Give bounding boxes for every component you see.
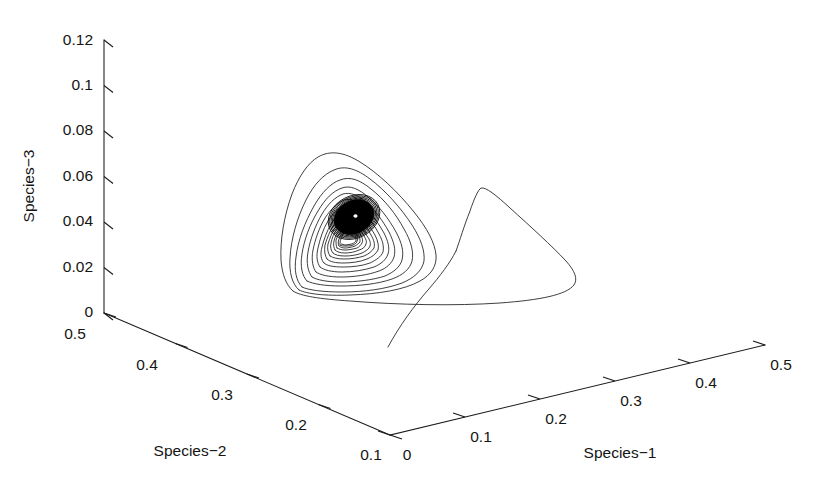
trajectory-curve — [281, 153, 576, 347]
x-tick-label: 0.5 — [770, 356, 792, 373]
z-tick-labels: 0.12 0.1 0.08 0.06 0.04 0.02 0 — [63, 31, 94, 320]
x-tick-label: 0.1 — [470, 428, 492, 445]
z-tick-label: 0.12 — [63, 31, 93, 48]
x-tick-label: 0.3 — [620, 392, 642, 409]
plot-canvas: 0.12 0.1 0.08 0.06 0.04 0.02 0 0.5 0.4 0… — [0, 0, 832, 493]
y-axis-title: Species−2 — [154, 442, 227, 459]
trajectory-tail — [388, 251, 456, 347]
fixed-point-marker — [353, 214, 357, 218]
z-tick-label: 0.02 — [63, 258, 93, 275]
z-tick-label: 0.06 — [63, 167, 93, 184]
z-tick-label: 0.1 — [71, 76, 93, 93]
x-tick-label: 0.2 — [545, 410, 567, 427]
y-tick-label: 0.5 — [64, 325, 86, 342]
z-axis-ticks — [104, 40, 113, 320]
x-tick-label: 0.4 — [695, 374, 717, 391]
z-axis-title: Species−3 — [20, 150, 37, 223]
z-tick-label: 0.04 — [63, 212, 94, 229]
y-tick-label: 0.3 — [211, 386, 233, 403]
y-tick-label: 0.4 — [136, 356, 158, 373]
z-tick-label: 0.08 — [63, 121, 93, 138]
x-tick-label: 0 — [403, 446, 412, 463]
y-tick-label: 0.2 — [285, 416, 307, 433]
x-axis-title: Species−1 — [584, 444, 657, 461]
z-tick-label: 0 — [84, 303, 93, 320]
y-tick-label: 0.1 — [360, 446, 382, 463]
axis-lines — [104, 40, 765, 435]
phase-portrait-figure: 0.12 0.1 0.08 0.06 0.04 0.02 0 0.5 0.4 0… — [0, 0, 832, 493]
